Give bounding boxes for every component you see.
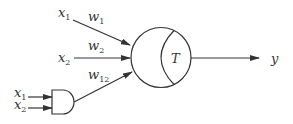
weight-w2-label: w2 xyxy=(88,38,104,55)
threshold-label: T xyxy=(171,51,181,66)
weight-w1-label: w1 xyxy=(88,9,104,26)
and-gate-icon xyxy=(52,90,74,114)
input-x2-label: x2 xyxy=(58,50,70,67)
neuron-diagram: x1 w1 x2 w2 x1 x2 w12 T y xyxy=(0,0,293,124)
input-x1-label: x1 xyxy=(58,5,70,22)
output-y-label: y xyxy=(270,51,279,66)
weight-w12-label: w12 xyxy=(88,67,109,84)
